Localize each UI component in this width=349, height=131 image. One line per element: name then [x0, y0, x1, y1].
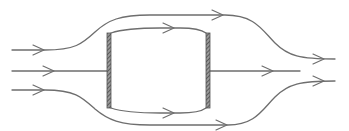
left-plate [107, 33, 111, 108]
streamline-top-outer [12, 10, 335, 64]
right-plate [206, 33, 210, 108]
flow-diagram [0, 0, 349, 131]
streamline-lower-inner [111, 108, 206, 118]
streamline-upper-inner [111, 23, 206, 33]
flow-diagram-canvas [0, 0, 349, 131]
streamline-bottom-outer [12, 76, 335, 130]
streamline-middle [12, 66, 300, 76]
